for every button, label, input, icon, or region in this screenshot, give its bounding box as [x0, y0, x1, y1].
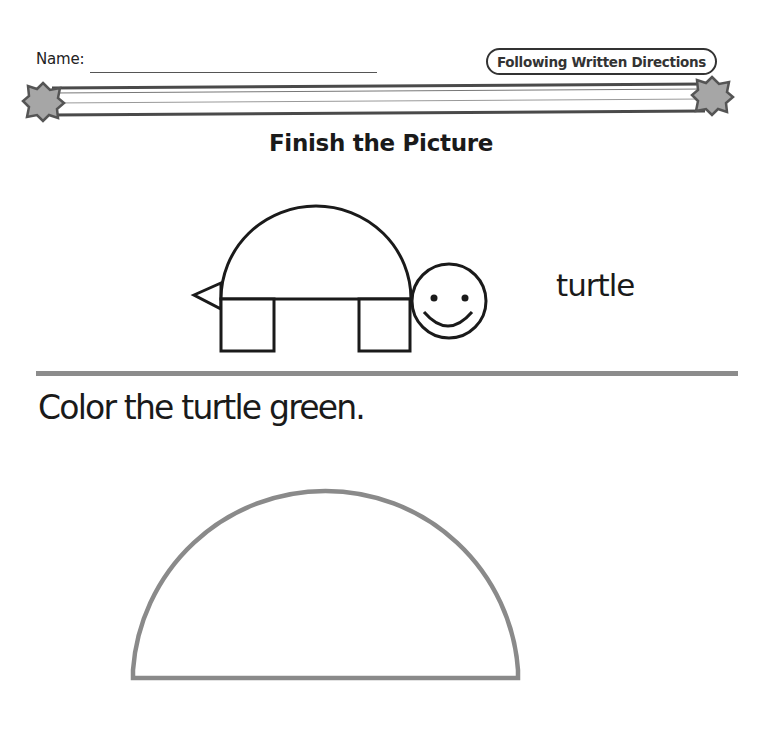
star-octagon-left-icon: [23, 83, 64, 121]
category-badge-text: Following Written Directions: [497, 54, 706, 70]
turtle-tail: [194, 283, 221, 309]
section-divider: [36, 371, 738, 376]
header-banner: [52, 84, 705, 115]
page-title: Finish the Picture: [0, 130, 762, 156]
name-field[interactable]: [90, 72, 377, 73]
turtle-leg-left: [221, 299, 274, 351]
example-word: turtle: [556, 267, 634, 303]
turtle-eye-right: [462, 295, 469, 302]
instruction-text: Color the turtle green.: [38, 388, 364, 427]
category-badge: Following Written Directions: [486, 48, 717, 75]
turtle-drawing: [194, 206, 486, 351]
shell-outline-to-color[interactable]: [133, 491, 518, 678]
turtle-shell: [221, 206, 411, 299]
name-label: Name:: [36, 50, 84, 68]
star-octagon-right-icon: [692, 77, 733, 115]
turtle-leg-right: [359, 299, 410, 351]
turtle-eye-left: [431, 295, 438, 302]
